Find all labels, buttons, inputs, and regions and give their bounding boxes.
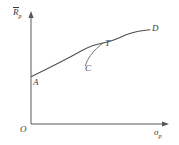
origin-label: O xyxy=(20,125,27,134)
y-axis-arrowhead xyxy=(28,11,33,18)
y-axis-label-sub: p xyxy=(19,13,22,19)
point-label-t: T xyxy=(105,39,110,48)
x-axis-label: σp xyxy=(154,128,162,139)
x-axis-arrowhead xyxy=(162,121,169,126)
point-label-c: C xyxy=(85,64,91,73)
figure-container: Rp σp O A T C D xyxy=(0,0,179,145)
point-label-d: D xyxy=(152,24,159,33)
y-axis-label: Rp xyxy=(13,7,22,19)
point-label-a: A xyxy=(33,78,39,87)
x-axis-label-sub: p xyxy=(158,133,161,139)
